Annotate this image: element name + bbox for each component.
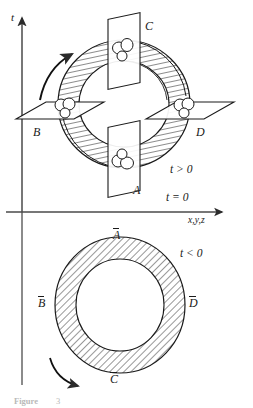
upper-panel-graphic <box>16 13 234 198</box>
node-label-B-bar: B <box>38 296 45 309</box>
t-axis-label: t <box>11 12 14 23</box>
node-label-B: B <box>33 126 40 138</box>
upper-condition-label: t > 0 <box>170 164 192 176</box>
node-label-A: A <box>133 184 140 196</box>
figure-caption-number: 3 <box>40 396 60 406</box>
node-label-C: C <box>145 20 153 32</box>
figure-canvas <box>0 0 253 408</box>
figure-root: t t = 0 x,y,z t > 0 t < 0 C B D A A B D … <box>0 0 253 408</box>
lower-panel-graphic <box>50 230 195 386</box>
figure-caption: Figure 3 <box>14 396 60 406</box>
annulus-body <box>50 230 195 380</box>
node-label-D: D <box>196 126 205 138</box>
node-label-D-bar: D <box>189 296 198 309</box>
figure-caption-label: Figure <box>14 396 38 406</box>
xyz-axis-label: x,y,z <box>188 216 205 226</box>
lower-condition-label: t < 0 <box>180 248 202 260</box>
node-label-A-bar: A <box>113 228 120 241</box>
origin-label: t = 0 <box>166 192 188 204</box>
node-label-C-bar: C <box>110 372 118 385</box>
